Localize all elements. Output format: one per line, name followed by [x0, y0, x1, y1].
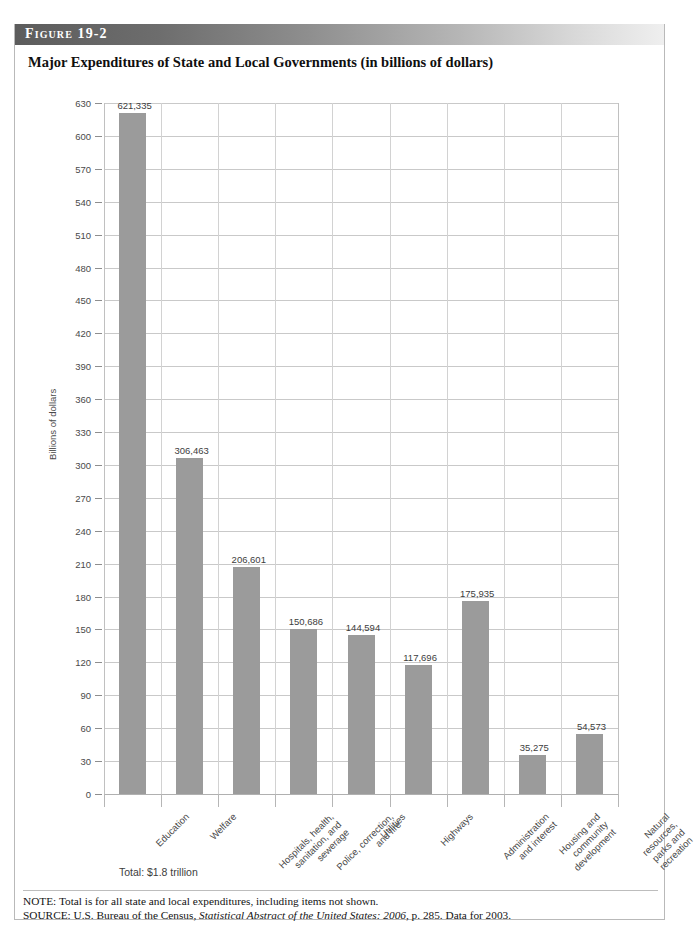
gridline-570 [104, 169, 618, 170]
y-tick-label-300: 300 [75, 459, 91, 470]
gridline-420 [104, 333, 618, 334]
y-tick-label-390: 390 [75, 361, 91, 372]
y-tick-label-150: 150 [75, 624, 91, 635]
y-tick-mark-360 [95, 399, 102, 400]
source-line: SOURCE: U.S. Bureau of the Census, Stati… [23, 908, 658, 922]
bar-value-label: 621,335 [117, 100, 151, 111]
y-tick-mark-30 [95, 761, 102, 762]
note-line: NOTE: Total is for all state and local e… [23, 894, 658, 908]
y-tick-mark-270 [95, 498, 102, 499]
y-tick-mark-210 [95, 564, 102, 565]
y-tick-mark-600 [95, 136, 102, 137]
bar [348, 635, 375, 794]
x-tick-mark-9 [618, 794, 619, 807]
y-tick-label-630: 630 [75, 98, 91, 109]
gridline-450 [104, 300, 618, 301]
y-tick-mark-390 [95, 366, 102, 367]
y-tick-label-330: 330 [75, 427, 91, 438]
y-tick-mark-570 [95, 169, 102, 170]
y-tick-label-600: 600 [75, 130, 91, 141]
bar-value-label: 175,935 [460, 588, 494, 599]
y-tick-mark-630 [95, 103, 102, 104]
total-note: Total: $1.8 trillion [119, 866, 198, 878]
bar [462, 601, 489, 794]
bar-value-label: 150,686 [289, 616, 323, 627]
y-tick-label-90: 90 [80, 690, 91, 701]
plot-area: 0306090120150180210240270300330360390420… [104, 103, 618, 794]
x-tick-mark-1 [161, 794, 162, 807]
y-tick-label-420: 420 [75, 328, 91, 339]
vertical-gridline-9 [618, 103, 619, 794]
y-tick-mark-0 [95, 794, 102, 795]
x-axis-label: Natural resources, parks and recreation [617, 811, 695, 889]
y-tick-label-570: 570 [75, 163, 91, 174]
y-tick-mark-330 [95, 432, 102, 433]
y-tick-mark-450 [95, 300, 102, 301]
vertical-gridline-4 [332, 103, 333, 794]
gridline-600 [104, 136, 618, 137]
y-tick-mark-300 [95, 465, 102, 466]
gridline-360 [104, 399, 618, 400]
bar [176, 458, 203, 794]
bar-value-label: 54,573 [577, 721, 606, 732]
y-tick-mark-240 [95, 531, 102, 532]
x-axis-label: Housing and community development [556, 811, 618, 873]
bar [405, 665, 432, 794]
bar [519, 755, 546, 794]
source-prefix: SOURCE: U.S. Bureau of the Census, [23, 909, 199, 921]
gridline-0 [104, 794, 618, 795]
bar [576, 734, 603, 794]
bar-value-label: 117,696 [403, 652, 437, 663]
x-tick-mark-3 [275, 794, 276, 807]
bar [119, 113, 146, 794]
y-tick-mark-540 [95, 202, 102, 203]
bar-value-label: 306,463 [174, 445, 208, 456]
vertical-gridline-8 [561, 103, 562, 794]
vertical-gridline-0 [104, 103, 105, 794]
gridline-480 [104, 268, 618, 269]
gridline-630 [104, 103, 618, 104]
x-tick-mark-0 [104, 794, 105, 807]
vertical-gridline-1 [161, 103, 162, 794]
x-axis-label: Administration and interest [501, 811, 559, 869]
y-tick-label-0: 0 [86, 789, 91, 800]
y-tick-mark-150 [95, 629, 102, 630]
gridline-390 [104, 366, 618, 367]
gridline-540 [104, 202, 618, 203]
x-tick-mark-4 [332, 794, 333, 807]
figure-card: Figure 19-2 Major Expenditures of State … [14, 24, 665, 920]
x-tick-mark-6 [447, 794, 448, 807]
bar-value-label: 144,594 [346, 622, 380, 633]
y-tick-mark-60 [95, 728, 102, 729]
x-tick-mark-2 [218, 794, 219, 807]
vertical-gridline-5 [390, 103, 391, 794]
x-axis-label: Education [153, 811, 191, 849]
y-axis-title: Billions of dollars [47, 389, 58, 460]
y-tick-label-360: 360 [75, 394, 91, 405]
y-tick-label-540: 540 [75, 196, 91, 207]
x-axis-label: Highways [438, 811, 475, 848]
y-tick-label-120: 120 [75, 657, 91, 668]
gridline-510 [104, 235, 618, 236]
vertical-gridline-6 [447, 103, 448, 794]
bar [290, 629, 317, 794]
y-tick-mark-180 [95, 597, 102, 598]
vertical-gridline-3 [275, 103, 276, 794]
vertical-gridline-2 [218, 103, 219, 794]
y-tick-mark-420 [95, 333, 102, 334]
source-title: Statistical Abstract of the United State… [199, 909, 406, 921]
y-tick-label-60: 60 [80, 723, 91, 734]
bar-value-label: 35,275 [520, 742, 549, 753]
x-tick-mark-8 [561, 794, 562, 807]
y-tick-mark-120 [95, 662, 102, 663]
y-tick-mark-510 [95, 235, 102, 236]
y-tick-label-480: 480 [75, 262, 91, 273]
y-tick-label-210: 210 [75, 558, 91, 569]
chart-area: Billions of dollars 03060901201501802102… [15, 24, 664, 918]
y-tick-label-510: 510 [75, 229, 91, 240]
y-tick-label-240: 240 [75, 525, 91, 536]
y-tick-mark-90 [95, 695, 102, 696]
x-axis-label: Hospitals, health, sanitation, and sewer… [276, 811, 351, 886]
y-tick-label-30: 30 [80, 756, 91, 767]
x-tick-mark-7 [504, 794, 505, 807]
